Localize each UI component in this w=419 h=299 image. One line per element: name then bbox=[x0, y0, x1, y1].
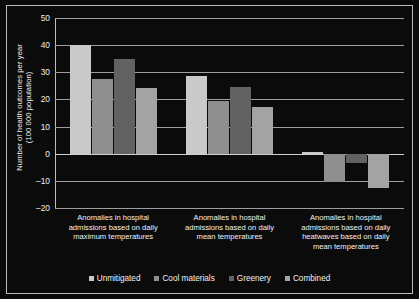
y-axis-tick-label: 30 bbox=[41, 67, 50, 77]
bar-slot bbox=[186, 18, 207, 208]
y-axis-tick-label: 20 bbox=[41, 94, 50, 104]
plot-area: 50403020100–10–20 bbox=[55, 18, 404, 208]
legend-label: Combined bbox=[293, 274, 330, 283]
legend-item[interactable]: Unmitigated bbox=[89, 274, 141, 283]
bar[interactable] bbox=[186, 76, 207, 153]
chart-frame: Number of health outcomes per year (100 … bbox=[6, 5, 413, 294]
bar-group-bars bbox=[171, 18, 287, 208]
legend-label: Unmitigated bbox=[97, 274, 141, 283]
bar-slot bbox=[114, 18, 135, 208]
bar[interactable] bbox=[136, 88, 157, 154]
legend-swatch-icon bbox=[154, 276, 159, 281]
bar-slot bbox=[70, 18, 91, 208]
x-axis-category-label: Anomalies in hospital admissions based o… bbox=[55, 213, 171, 251]
y-axis-tick-label: 10 bbox=[41, 122, 50, 132]
bar-slot bbox=[136, 18, 157, 208]
bar[interactable] bbox=[346, 154, 367, 164]
bar[interactable] bbox=[230, 87, 251, 154]
legend-swatch-icon bbox=[229, 276, 234, 281]
y-axis-tick-label: –10 bbox=[36, 176, 50, 186]
bar-group-bars bbox=[55, 18, 171, 208]
bar-slot bbox=[324, 18, 345, 208]
bar[interactable] bbox=[302, 152, 323, 154]
legend-item[interactable]: Greenery bbox=[229, 274, 271, 283]
bar[interactable] bbox=[70, 45, 91, 154]
bar-slot bbox=[302, 18, 323, 208]
legend-label: Cool materials bbox=[162, 274, 214, 283]
bar-slot bbox=[208, 18, 229, 208]
bar-group-bars bbox=[288, 18, 404, 208]
bar-slot bbox=[252, 18, 273, 208]
x-axis-category-label: Anomalies in hospital admissions based o… bbox=[171, 213, 287, 251]
bar[interactable] bbox=[92, 79, 113, 154]
bar[interactable] bbox=[324, 154, 345, 182]
bar-slot bbox=[346, 18, 367, 208]
y-axis-title: Number of health outcomes per year (100 … bbox=[15, 22, 34, 192]
legend-item[interactable]: Cool materials bbox=[154, 274, 214, 283]
x-axis-category-labels: Anomalies in hospital admissions based o… bbox=[55, 213, 404, 251]
bar[interactable] bbox=[208, 101, 229, 153]
bar-slot bbox=[92, 18, 113, 208]
chart-legend: UnmitigatedCool materialsGreeneryCombine… bbox=[7, 274, 412, 283]
y-axis-tick-label: 0 bbox=[45, 149, 50, 159]
bar[interactable] bbox=[114, 59, 135, 153]
legend-swatch-icon bbox=[89, 276, 94, 281]
y-axis-tick-label: 50 bbox=[41, 13, 50, 23]
figure-root: Number of health outcomes per year (100 … bbox=[0, 0, 419, 299]
bar-group bbox=[55, 18, 171, 208]
bar-group bbox=[288, 18, 404, 208]
legend-item[interactable]: Combined bbox=[285, 274, 330, 283]
bar-slot bbox=[368, 18, 389, 208]
legend-swatch-icon bbox=[285, 276, 290, 281]
bar[interactable] bbox=[252, 107, 273, 154]
x-axis-category-label: Anomalies in hospital admissions based o… bbox=[288, 213, 404, 251]
y-axis-tick-label: –20 bbox=[36, 203, 50, 213]
gridline--20: –20 bbox=[55, 208, 404, 209]
bar[interactable] bbox=[368, 154, 389, 188]
bar-group bbox=[171, 18, 287, 208]
bar-slot bbox=[230, 18, 251, 208]
bar-groups bbox=[55, 18, 404, 208]
legend-label: Greenery bbox=[237, 274, 271, 283]
y-axis-tick-label: 40 bbox=[41, 40, 50, 50]
